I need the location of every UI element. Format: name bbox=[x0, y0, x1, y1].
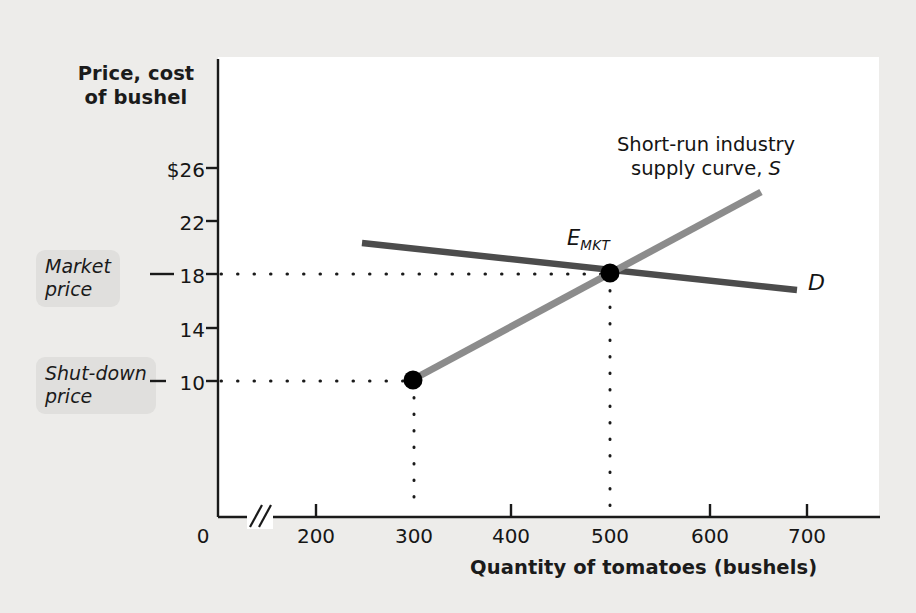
economics-figure: Price, cost of bushel Quantity of tomato… bbox=[0, 0, 916, 613]
demand-curve bbox=[362, 243, 797, 290]
supply-curve bbox=[412, 192, 761, 380]
shutdown-point-marker bbox=[404, 371, 423, 390]
callout-leader-lines bbox=[150, 274, 174, 381]
equilibrium-point-marker bbox=[601, 264, 620, 283]
x-axis-break-icon bbox=[247, 505, 273, 529]
chart-drawing-overlay bbox=[0, 0, 916, 613]
